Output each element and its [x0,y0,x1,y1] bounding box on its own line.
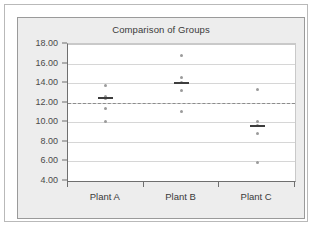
figure-root: Comparison of Groups 18.0016.0014.0012.0… [0,0,312,226]
group-mean-marker [174,82,189,84]
group-mean-marker [250,125,265,127]
chart-panel: Comparison of Groups 18.0016.0014.0012.0… [17,17,305,219]
group-mean-marker [98,97,113,99]
y-axis-tick-label: 18.00 [35,38,58,48]
x-axis: Plant APlant BPlant C [67,182,296,212]
x-axis-tick-label: Plant A [90,191,120,202]
y-axis-tick-label: 4.00 [40,175,58,185]
x-axis-tick-mark [294,182,295,187]
y-axis-tick-label: 14.00 [35,77,58,87]
x-axis-tick-label: Plant B [165,191,196,202]
plot-area [67,43,296,182]
y-axis: 18.0016.0014.0012.0010.008.006.004.00 [18,43,67,182]
x-axis-tick-mark [218,182,219,187]
chart-title: Comparison of Groups [18,24,304,35]
x-axis-tick-mark [143,182,144,187]
x-axis-tick-label: Plant C [241,191,272,202]
y-axis-tick-label: 16.00 [35,58,58,68]
y-axis-tick-label: 10.00 [35,116,58,126]
y-axis-tick-label: 8.00 [40,136,58,146]
y-axis-tick-label: 6.00 [40,155,58,165]
y-axis-tick-label: 12.00 [35,97,58,107]
x-axis-tick-mark [67,182,68,187]
group-mean-markers-layer [68,44,295,181]
figure-outer-frame: Comparison of Groups 18.0016.0014.0012.0… [4,4,308,222]
